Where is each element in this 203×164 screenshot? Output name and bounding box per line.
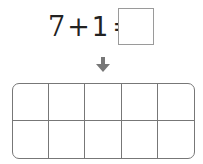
ten-frame-cell[interactable] <box>49 84 85 121</box>
left-operand: 7 <box>48 8 65 46</box>
ten-frame-cell[interactable] <box>122 84 158 121</box>
ten-frame-cell[interactable] <box>13 121 49 158</box>
ten-frame <box>12 83 195 159</box>
right-operand: 1 <box>92 8 109 46</box>
plus-sign: + <box>67 8 90 46</box>
ten-frame-cell[interactable] <box>158 84 194 121</box>
down-arrow-icon <box>96 57 110 73</box>
answer-box[interactable] <box>118 8 154 45</box>
ten-frame-cell[interactable] <box>122 121 158 158</box>
ten-frame-cell[interactable] <box>158 121 194 158</box>
ten-frame-cell[interactable] <box>85 121 121 158</box>
ten-frame-cell[interactable] <box>85 84 121 121</box>
ten-frame-cell[interactable] <box>49 121 85 158</box>
ten-frame-cell[interactable] <box>13 84 49 121</box>
